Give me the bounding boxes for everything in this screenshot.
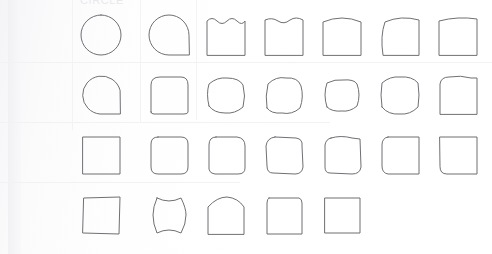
shape-outline-path xyxy=(440,76,477,114)
shape-rounded-square-notched xyxy=(263,74,305,116)
shape-outline-path xyxy=(266,137,303,174)
shape-circle xyxy=(80,14,122,56)
shape-concave-pillow xyxy=(148,194,190,236)
shape-square-domed-top xyxy=(205,194,247,236)
shape-square-rounded-lower-left xyxy=(437,134,479,176)
shape-circle-one-square-corner xyxy=(148,14,190,56)
shape-outline-path xyxy=(83,137,120,174)
shape-square-scalloped-top xyxy=(205,14,247,56)
shape-square-bulging-left-top xyxy=(379,14,421,56)
shape-outline-path xyxy=(265,18,303,55)
shape-outline-path xyxy=(382,137,419,174)
shape-rounded-square-small-radius xyxy=(148,134,190,176)
shape-outline-path xyxy=(83,197,120,234)
shape-outline-path xyxy=(207,19,245,56)
shape-rounded-square-wobble xyxy=(263,134,305,176)
shape-outline-path xyxy=(325,137,361,175)
shape-square-hand-drawn xyxy=(80,194,122,236)
shape-outline-path xyxy=(83,76,120,114)
shape-square-sharp xyxy=(80,134,122,176)
screenshot-canvas: CIRCLE xyxy=(0,0,492,254)
shape-square-arched-top xyxy=(321,14,363,56)
shape-outline-path xyxy=(151,77,188,114)
shape-rounded-square-soft xyxy=(205,74,247,116)
shape-morph-grid xyxy=(0,0,492,254)
shape-rounded-square-large-radius xyxy=(148,74,190,116)
shape-square-rounded-upper-left xyxy=(437,74,479,116)
shape-outline-path xyxy=(81,15,121,55)
shape-outline-path xyxy=(151,137,188,174)
shape-outline-path xyxy=(325,80,359,111)
shape-square-curved-top xyxy=(437,14,479,56)
shape-outline-path xyxy=(439,18,477,55)
shape-outline-path xyxy=(381,77,419,114)
shape-outline-path xyxy=(208,197,244,234)
shape-outline-path xyxy=(266,78,302,114)
shape-square-wavy-top xyxy=(263,14,305,56)
shape-outline-path xyxy=(209,137,245,174)
shape-square-plain xyxy=(321,194,363,236)
shape-square-rough-edges xyxy=(321,134,363,176)
shape-outline-path xyxy=(208,78,245,113)
shape-square-slightly-rounded xyxy=(263,194,305,236)
shape-outline-path xyxy=(153,198,186,233)
shape-outline-path xyxy=(149,15,189,55)
shape-outline-path xyxy=(382,18,419,55)
shape-rounded-square-concave-sides xyxy=(321,74,363,116)
shape-circle-square-right xyxy=(80,74,122,116)
shape-rounded-square-uneven xyxy=(205,134,247,176)
shape-outline-path xyxy=(267,198,302,234)
shape-squircle xyxy=(379,74,421,116)
shape-outline-path xyxy=(323,18,361,55)
shape-outline-path xyxy=(440,137,477,174)
shape-square-rounded-left xyxy=(379,134,421,176)
shape-outline-path xyxy=(325,198,360,233)
